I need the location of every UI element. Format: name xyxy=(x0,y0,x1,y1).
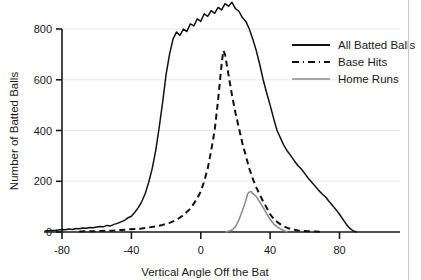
y-tick-label-800: 800 xyxy=(34,23,52,35)
y-tick-label-400: 400 xyxy=(34,125,52,137)
chart-legend: All Batted BallsBase HitsHome Runs xyxy=(292,39,416,85)
y-tick-label-0: 0 xyxy=(46,226,52,238)
y-tick-label-200: 200 xyxy=(34,175,52,187)
x-tick-label--80: -80 xyxy=(54,244,70,256)
y-tick-label-600: 600 xyxy=(34,74,52,86)
vertical-angle-distribution-chart: 0200400600800 -80-4004080 Vertical Angle… xyxy=(0,0,421,280)
y-axis-ticks: 0200400600800 xyxy=(34,23,62,238)
x-tick-label--40: -40 xyxy=(123,244,139,256)
x-tick-label-40: 40 xyxy=(264,244,276,256)
x-tick-label-0: 0 xyxy=(198,244,204,256)
page-border xyxy=(408,0,409,280)
series-line-all-batted-balls xyxy=(45,2,357,232)
x-axis-ticks: -80-4004080 xyxy=(54,232,346,256)
chart-figure: 0200400600800 -80-4004080 Vertical Angle… xyxy=(0,0,421,280)
x-axis-title: Vertical Angle Off the Bat xyxy=(141,266,269,278)
y-axis-title: Number of Batted Balls xyxy=(8,72,20,191)
x-tick-label-80: 80 xyxy=(333,244,345,256)
legend-label-all-batted-balls: All Batted Balls xyxy=(338,39,416,51)
legend-label-home-runs: Home Runs xyxy=(338,73,399,85)
series-line-base-hits xyxy=(79,51,322,232)
legend-label-base-hits: Base Hits xyxy=(338,56,387,68)
data-series-layer xyxy=(45,2,357,232)
series-line-home-runs xyxy=(225,191,287,232)
